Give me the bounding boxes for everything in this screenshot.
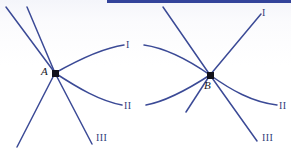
branch-label-right-ii: II [279,101,286,111]
node-label-b: B [204,80,211,91]
curve-A-down-left [17,73,55,147]
curve-B-down-right-III [210,75,257,141]
curve-canvas [0,0,291,154]
branch-label-right-i: I [262,8,266,18]
curve-intersection-diagram: A B I II III I II III [0,0,291,154]
curve-B-up-left-outer [163,7,210,75]
node-marker-a [52,70,59,77]
branch-label-left-iii: III [96,133,107,143]
curve-A-arc-lower-II [55,73,122,105]
curve-A-arc-upper-I [55,45,124,73]
curve-B-up-right-I [210,14,261,75]
curve-A-down-right [55,73,92,144]
node-marker-b [207,72,214,79]
branch-label-right-iii: III [262,133,273,143]
branch-label-left-ii: II [124,101,131,111]
node-label-a: A [41,66,48,77]
branch-label-left-i: I [126,40,130,50]
